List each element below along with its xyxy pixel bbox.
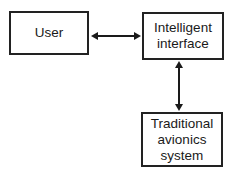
- connector-arrows: [0, 0, 228, 170]
- interface-avionics-arrow: [175, 61, 183, 111]
- user-interface-arrow: [91, 32, 141, 40]
